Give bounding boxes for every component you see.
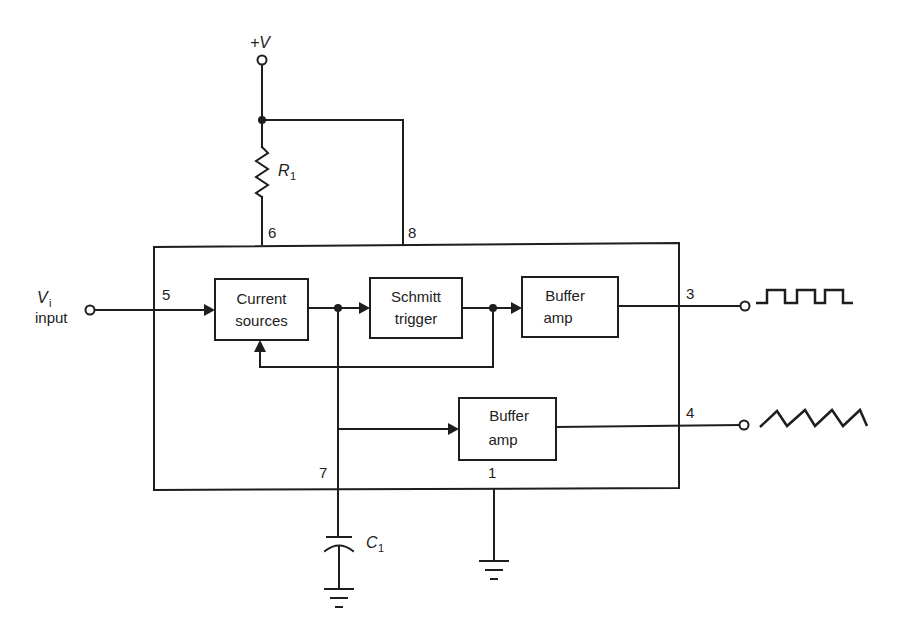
svg-text:sources: sources (235, 312, 288, 329)
buffer-amp-triangle-block: Buffer amp (459, 398, 556, 460)
pin-7-label: 7 (319, 464, 327, 481)
triangle-wave-icon (760, 410, 867, 427)
svg-text:amp: amp (488, 431, 517, 448)
input-label: V (37, 289, 49, 306)
capacitor-c1: C 1 (325, 534, 384, 588)
supply-terminal: +V (250, 34, 271, 65)
svg-text:Current: Current (236, 290, 287, 307)
pin-1-label: 1 (488, 464, 496, 481)
pin-5-label: 5 (162, 286, 170, 303)
current-sources-block: Current sources (215, 279, 308, 340)
ground-icon (480, 561, 508, 579)
ground-icon (325, 589, 353, 607)
capacitor-subscript: 1 (378, 542, 384, 554)
resistor-subscript: 1 (290, 170, 296, 182)
svg-text:amp: amp (543, 309, 572, 326)
square-wave-icon (756, 290, 853, 303)
supply-label: +V (250, 34, 271, 51)
pin-8-label: 8 (408, 224, 416, 241)
svg-text:Buffer: Buffer (545, 287, 585, 304)
function-generator-block-diagram: +V R 1 6 8 V i input 5 Current sources S… (0, 0, 899, 643)
input-terminal: V i input (35, 289, 95, 326)
output-terminal-pin4 (740, 421, 749, 430)
output-terminal-pin3 (741, 302, 750, 311)
input-caption: input (35, 309, 68, 326)
resistor-label: R (278, 162, 290, 179)
pin-3-label: 3 (686, 285, 694, 302)
pin-4-label: 4 (686, 404, 694, 421)
capacitor-label: C (366, 534, 378, 551)
svg-text:Schmitt: Schmitt (391, 288, 442, 305)
input-subscript: i (49, 297, 51, 309)
pin-6-label: 6 (268, 224, 276, 241)
buffer-amp-square-block: Buffer amp (522, 277, 618, 337)
schmitt-trigger-block: Schmitt trigger (370, 278, 462, 338)
svg-text:Buffer: Buffer (489, 407, 529, 424)
svg-text:trigger: trigger (395, 310, 438, 327)
